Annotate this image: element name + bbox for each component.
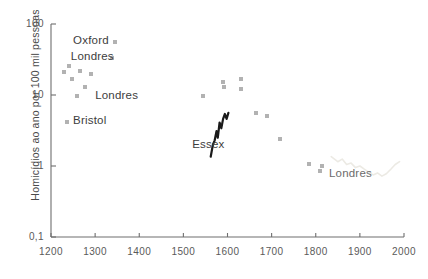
x-tick-label: 1600	[212, 246, 244, 257]
x-tick-label: 1500	[167, 246, 199, 257]
x-tick-label: 1300	[79, 246, 111, 257]
series-annotation-label: Essex	[192, 138, 224, 150]
series-annotation-label: Oxford	[73, 34, 109, 46]
series-annotation-label: Londres	[95, 89, 138, 101]
chart-canvas: 120013001400150016001700180019002000 100…	[0, 0, 428, 279]
series-annotation-label: Bristol	[73, 114, 106, 126]
data-point-marker	[222, 85, 226, 89]
data-point-marker	[62, 70, 66, 74]
y-axis-title-wrapper: Homicídios ao ano por 100 mil pessoas	[25, 5, 43, 205]
series-annotation-label: Londres	[329, 167, 372, 179]
data-point-marker	[265, 114, 269, 118]
x-tick-label: 1900	[344, 246, 376, 257]
data-point-marker	[239, 77, 243, 81]
data-point-marker	[113, 40, 117, 44]
data-point-marker	[201, 94, 205, 98]
data-point-marker	[83, 85, 87, 89]
x-tick-label: 1700	[256, 246, 288, 257]
data-point-marker	[221, 80, 225, 84]
data-point-marker	[239, 87, 243, 91]
data-point-marker	[67, 64, 71, 68]
data-point-marker	[75, 94, 79, 98]
data-point-marker	[89, 72, 93, 76]
data-point-marker	[70, 77, 74, 81]
x-tick-label: 1800	[300, 246, 332, 257]
y-tick-label: 0,1	[8, 231, 44, 242]
data-point-marker	[320, 164, 324, 168]
data-point-marker	[307, 162, 311, 166]
data-point-marker	[78, 69, 82, 73]
data-point-marker	[65, 120, 69, 124]
series-annotation-label: Londres	[71, 50, 114, 62]
data-point-marker	[254, 111, 258, 115]
x-tick-label: 1200	[35, 246, 67, 257]
x-tick-label: 2000	[388, 246, 420, 257]
data-point-marker	[318, 169, 322, 173]
data-point-marker	[278, 137, 282, 141]
y-axis-title: Homicídios ao ano por 100 mil pessoas	[29, 9, 41, 200]
x-tick-label: 1400	[123, 246, 155, 257]
